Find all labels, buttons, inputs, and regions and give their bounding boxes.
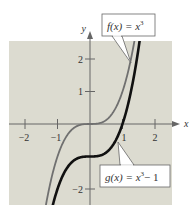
y-axis-label: y bbox=[81, 23, 87, 34]
x-tick-label: −1 bbox=[51, 132, 62, 143]
x-axis-label: x bbox=[183, 118, 189, 129]
y-tick-label: −2 bbox=[72, 184, 83, 195]
y-axis-arrow-icon bbox=[87, 31, 93, 39]
f-label-exponent: 3 bbox=[140, 19, 144, 27]
x-tick-label: 2 bbox=[153, 132, 158, 143]
cubic-function-chart: x y −2 −1 1 2 2 1 −2 f(x) = x3 bbox=[0, 0, 193, 217]
y-tick-label: 2 bbox=[78, 54, 83, 65]
y-tick-label: 1 bbox=[78, 86, 83, 97]
svg-text:g(x) = x3− 1: g(x) = x3− 1 bbox=[105, 170, 158, 184]
x-tick-label: 1 bbox=[122, 132, 127, 143]
svg-text:f(x) = x3: f(x) = x3 bbox=[107, 19, 144, 33]
x-axis-arrow-icon bbox=[172, 121, 180, 127]
g-label-tail: − 1 bbox=[144, 171, 158, 183]
x-tick-label: −2 bbox=[19, 132, 30, 143]
g-label-text: g(x) = x bbox=[105, 171, 141, 184]
f-label-text: f(x) = x bbox=[107, 20, 140, 33]
